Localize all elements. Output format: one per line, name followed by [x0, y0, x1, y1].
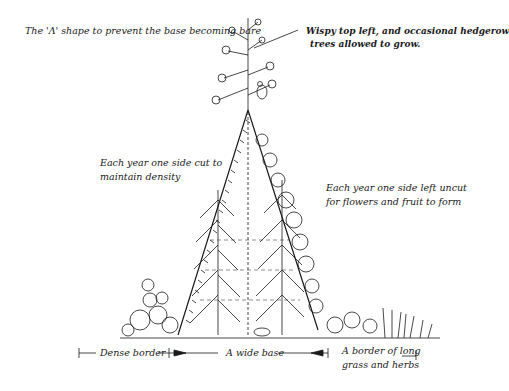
label-grass-border-line1: A border of long — [342, 344, 421, 358]
label-grass-border-line2: grass and herbs — [342, 358, 419, 372]
label-uncut-side-line2: for flowers and fruit to form — [326, 195, 461, 209]
label-wide-base: A wide base — [226, 346, 284, 360]
label-uncut-side-line1: Each year one side left uncut — [326, 181, 467, 195]
label-dense-border: Dense border — [100, 346, 165, 360]
dense-border-shrubs — [122, 279, 178, 336]
label-wispy-top-line1: Wispy top left, and occasional hedgerow — [306, 24, 509, 38]
hedgehog-icon — [254, 328, 270, 336]
grass-herb-border — [327, 308, 432, 338]
label-cut-side-line2: maintain density — [100, 170, 180, 184]
label-wispy-top-line2: trees allowed to grow. — [310, 37, 420, 51]
label-a-shape: The 'Λ' shape to prevent the base becomi… — [25, 24, 261, 38]
label-cut-side-line1: Each year one side cut to — [100, 156, 222, 170]
hedge-trees — [190, 110, 304, 335]
